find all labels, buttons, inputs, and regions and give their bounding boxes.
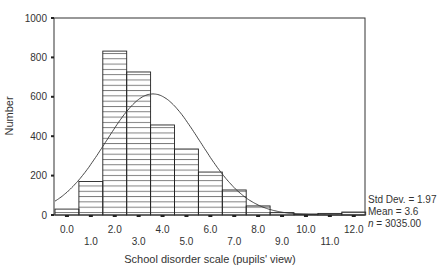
plot-area (55, 51, 366, 215)
histogram-bar (246, 206, 270, 215)
x-axis-title: School disorder scale (pupils' view) (124, 253, 295, 265)
y-tick-mark (51, 56, 54, 58)
x-tick-mark (113, 215, 117, 217)
x-tick-label: 11.0 (320, 236, 339, 247)
x-tick-mark (208, 215, 212, 217)
x-tick-mark (256, 215, 260, 217)
x-tick-label: 12.0 (344, 224, 364, 235)
x-tick-label: 5.0 (179, 236, 193, 247)
x-tick-label: 10.0 (296, 224, 316, 235)
x-tick-mark (232, 215, 236, 217)
mean-label: Mean = 3.6 (368, 206, 436, 218)
x-tick-label: 6.0 (203, 224, 217, 235)
histogram-bar (198, 172, 222, 215)
x-tick-mark (304, 215, 308, 217)
x-tick-mark (65, 215, 69, 217)
n-value: = 3035.00 (374, 218, 422, 229)
histogram-bar (55, 209, 79, 215)
histogram-chart: 020040060080010000.02.04.06.08.010.012.0… (0, 0, 447, 273)
stats-box: Std Dev. = 1.97 Mean = 3.6 n = 3035.00 (368, 194, 436, 230)
x-tick-mark (280, 215, 284, 217)
x-tick-label: 7.0 (227, 236, 241, 247)
x-tick-label: 2.0 (108, 224, 122, 235)
histogram-bar (151, 125, 175, 215)
y-tick-mark (51, 17, 54, 19)
x-tick-label: 9.0 (275, 236, 289, 247)
x-tick-mark (184, 215, 188, 217)
histogram-bar (175, 149, 199, 215)
x-tick-label: 4.0 (156, 224, 170, 235)
n-label: n = 3035.00 (368, 218, 436, 230)
y-tick-label: 800 (30, 52, 47, 63)
x-tick-mark (89, 215, 93, 217)
y-tick-label: 0 (41, 210, 47, 221)
x-tick-mark (352, 215, 356, 217)
y-tick-mark (51, 175, 54, 177)
y-tick-mark (51, 96, 54, 98)
std-dev-label: Std Dev. = 1.97 (368, 194, 436, 206)
y-tick-label: 200 (30, 170, 47, 181)
y-tick-label: 1000 (25, 13, 48, 24)
histogram-bar (103, 51, 127, 215)
x-tick-mark (161, 215, 165, 217)
y-axis-title: Number (3, 96, 15, 135)
histogram-bar (79, 182, 103, 215)
x-tick-label: 0.0 (60, 224, 74, 235)
axes: 020040060080010000.02.04.06.08.010.012.0… (3, 13, 365, 266)
y-tick-label: 600 (30, 91, 47, 102)
x-tick-mark (328, 215, 332, 217)
y-tick-mark (51, 135, 54, 137)
histogram-bar (222, 190, 246, 215)
x-tick-label: 1.0 (84, 236, 98, 247)
x-tick-mark (137, 215, 141, 217)
y-tick-mark (51, 214, 54, 216)
y-tick-label: 400 (30, 131, 47, 142)
histogram-bar (127, 72, 151, 215)
x-tick-label: 8.0 (251, 224, 265, 235)
x-tick-label: 3.0 (132, 236, 146, 247)
